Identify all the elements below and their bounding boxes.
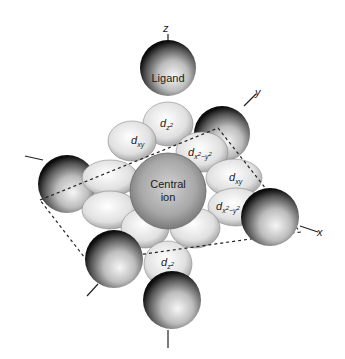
central-ion-label-1: Central (148, 178, 188, 191)
ligand-top-z (140, 40, 196, 96)
x-axis-line (300, 226, 318, 232)
orbital-dx2y2-upper: dx2−y2 (188, 146, 212, 160)
central-ion-label-2: ion (148, 191, 188, 204)
orbital-dxy-right: dxy (229, 171, 242, 185)
orbital-dx2y2-right: dx2−y2 (216, 200, 240, 214)
z-axis-label: z (163, 22, 169, 34)
minus-y-axis-line (87, 284, 98, 296)
orbital-dz2-bottom: dz2 (161, 256, 174, 270)
orbital-dz2-top: dz2 (160, 117, 173, 131)
y-axis-label: y (255, 86, 261, 98)
ligand-front-y (85, 230, 143, 288)
minus-x-axis-line (25, 156, 43, 160)
ligand-bottom-z (143, 271, 201, 329)
orbital-dxy-left: dxy (131, 134, 144, 148)
ligand-label: Ligand (148, 72, 188, 85)
ligand-right-x (241, 188, 299, 246)
x-axis-label: x (317, 226, 323, 238)
